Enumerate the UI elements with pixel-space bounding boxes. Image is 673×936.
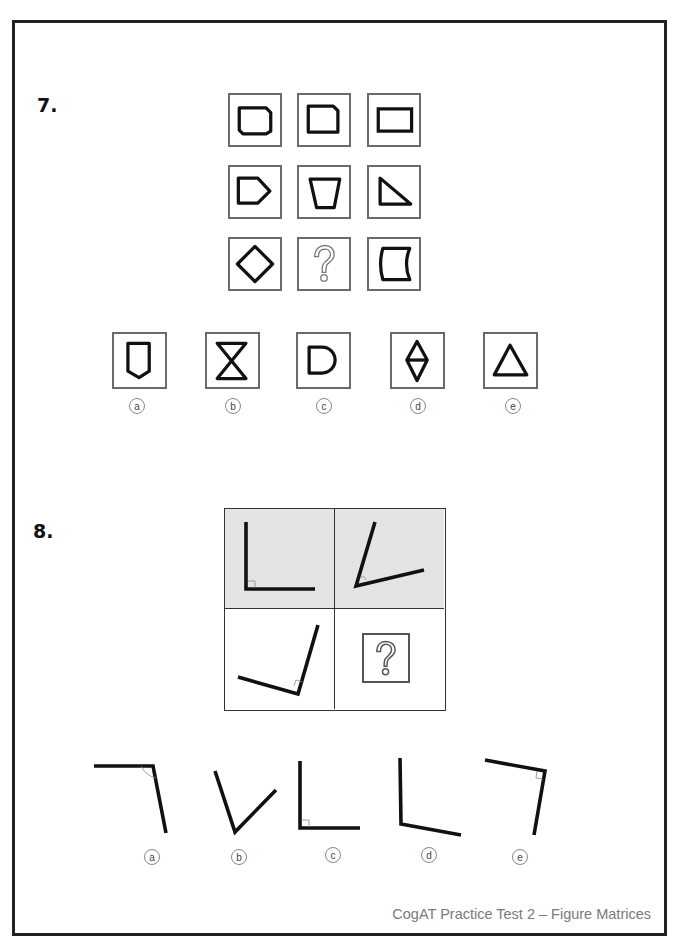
question-mark-box (362, 633, 410, 683)
option-letter[interactable]: b (231, 849, 247, 865)
matrix-cell-question-mark (297, 237, 351, 291)
matrix-cell-trapezoid (297, 165, 351, 219)
option-letter[interactable]: a (144, 849, 160, 865)
matrix-cell-concave-rect (367, 237, 421, 291)
page-border (12, 20, 667, 936)
option-d-double-triangle[interactable] (390, 332, 445, 389)
option-b-hourglass[interactable] (205, 332, 260, 389)
matrix-cell-rectangle (367, 93, 421, 147)
option-letter[interactable]: c (316, 398, 332, 414)
option-letter[interactable]: c (325, 847, 341, 863)
option-letter[interactable]: d (421, 847, 437, 863)
question-number: 7. (37, 94, 57, 116)
option-letter[interactable]: b (225, 398, 241, 414)
question-number: 8. (33, 520, 53, 542)
option-letter[interactable]: e (512, 849, 528, 865)
matrix-cell-pentagon-arrow (228, 165, 282, 219)
option-a-shield[interactable] (112, 332, 167, 389)
matrix-cell-shaded (225, 509, 335, 609)
option-letter[interactable]: e (505, 398, 521, 414)
matrix-cell-diamond (228, 237, 282, 291)
matrix-cell-rect-cut-corners (228, 93, 282, 147)
matrix-cell (225, 609, 335, 709)
option-e-triangle[interactable] (483, 332, 538, 389)
matrix-2x2 (224, 508, 446, 711)
option-c-d-shape[interactable] (296, 332, 351, 389)
option-letter[interactable]: d (410, 398, 426, 414)
option-letter[interactable]: a (129, 398, 145, 414)
matrix-cell-shaded (335, 509, 444, 609)
footer-title: CogAT Practice Test 2 – Figure Matrices (392, 906, 651, 922)
matrix-cell-right-triangle (367, 165, 421, 219)
matrix-cell-rect-cut-corner (297, 93, 351, 147)
